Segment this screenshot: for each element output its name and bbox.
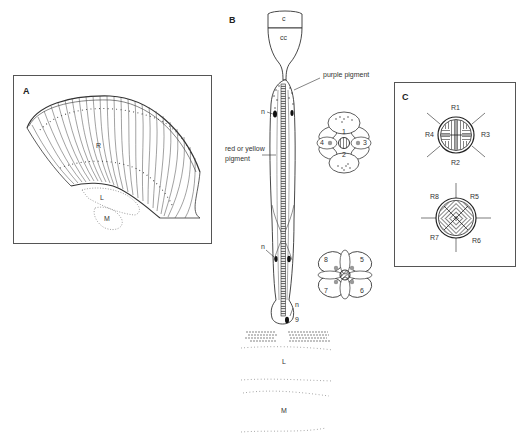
crystalline-cone-label: cc bbox=[280, 34, 287, 41]
nucleus-label-2: n bbox=[261, 243, 265, 250]
purple-pigment-label: purple pigment bbox=[323, 71, 369, 78]
medulla-label-b: M bbox=[281, 407, 287, 414]
r1-label: R1 bbox=[451, 104, 460, 111]
cell-1-label: 1 bbox=[342, 128, 346, 135]
r5-label: R5 bbox=[470, 193, 479, 200]
panel-a-retina bbox=[27, 96, 200, 230]
r4-label: R4 bbox=[425, 131, 434, 138]
cell-4-label: 4 bbox=[320, 139, 324, 146]
nucleus-label-1: n bbox=[261, 108, 265, 115]
diagram-drawing bbox=[0, 0, 524, 444]
retina-label: R bbox=[96, 142, 101, 149]
r8-label: R8 bbox=[430, 193, 439, 200]
nucleus-cell-9 bbox=[285, 317, 289, 323]
r2-label: R2 bbox=[451, 159, 460, 166]
cell-9-label: 9 bbox=[295, 316, 299, 323]
panel-b-label: B bbox=[229, 15, 236, 25]
cell-3-label: 3 bbox=[363, 139, 367, 146]
lamina-label-a: L bbox=[100, 194, 104, 201]
cell-2-label: 2 bbox=[342, 151, 346, 158]
panel-b-ommatidium bbox=[241, 11, 333, 432]
medulla-label-a: M bbox=[104, 215, 110, 222]
panel-a-label: A bbox=[23, 86, 30, 96]
nucleus-label-3: n bbox=[295, 301, 299, 308]
cell-5-label: 5 bbox=[360, 256, 364, 263]
r3-label: R3 bbox=[481, 131, 490, 138]
lamina-label-b: L bbox=[282, 358, 286, 365]
cell-7-label: 7 bbox=[324, 287, 328, 294]
cell-8-label: 8 bbox=[324, 256, 328, 263]
nucleus-1 bbox=[273, 111, 277, 118]
panel-c-label: C bbox=[402, 92, 409, 102]
cornea-label: c bbox=[282, 15, 286, 22]
r7-label: R7 bbox=[430, 234, 439, 241]
nucleus-2 bbox=[274, 256, 277, 262]
cell-6-label: 6 bbox=[360, 287, 364, 294]
r6-label: R6 bbox=[472, 237, 481, 244]
red-yellow-pigment-label-1: red or yellow bbox=[225, 145, 265, 152]
red-yellow-pigment-label-2: pigment bbox=[225, 155, 250, 162]
